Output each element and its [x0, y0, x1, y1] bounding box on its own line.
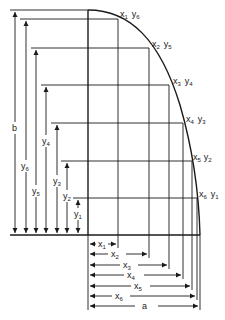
label-x1: x1 — [98, 239, 107, 250]
svg-text:x6y1: x6y1 — [199, 189, 219, 200]
svg-text:x2y5: x2y5 — [152, 39, 172, 50]
label-y3: y3 — [53, 176, 62, 187]
label-x2: x2 — [111, 249, 120, 260]
svg-text:x5y2: x5y2 — [193, 152, 212, 163]
label-y6: y6 — [21, 161, 30, 172]
label-y2: y2 — [63, 191, 72, 202]
svg-text:x4y3: x4y3 — [186, 114, 206, 125]
svg-text:x3y4: x3y4 — [173, 76, 193, 87]
curve-point-labels: x1y6 x2y5 x3y4 x4y3 x5y2 x6y1 — [120, 9, 219, 200]
vertical-dimension-labels: b y6 y5 y4 y3 y2 y1 — [12, 123, 83, 220]
horizontal-dimension-arrows — [90, 244, 198, 306]
elliptical-quadrant-diagram: x1y6 x2y5 x3y4 x4y3 x5y2 x6y1 b y6 y5 y4… — [0, 0, 225, 320]
label-y4: y4 — [42, 136, 51, 147]
label-x4: x4 — [127, 270, 136, 281]
label-x5: x5 — [134, 281, 143, 292]
label-y1: y1 — [74, 209, 83, 220]
label-y5: y5 — [32, 186, 41, 197]
label-b: b — [12, 123, 17, 133]
vertical-grid — [88, 19, 200, 310]
label-x6: x6 — [115, 291, 124, 302]
label-a: a — [142, 301, 147, 311]
svg-text:x1y6: x1y6 — [120, 9, 140, 20]
